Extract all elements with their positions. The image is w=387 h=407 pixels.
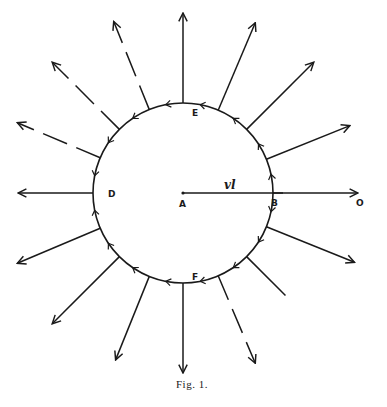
radial-arrow: [266, 227, 354, 263]
label-D: D: [108, 189, 115, 199]
label-E: E: [192, 108, 198, 118]
radial-arrow: [266, 126, 350, 160]
radial-arrow: [52, 257, 119, 324]
radial-arrow: [52, 62, 119, 129]
label-B: B: [271, 198, 278, 208]
figure-diagram: A B D E F O vl Fig. 1.: [0, 0, 387, 407]
center-dot: [181, 191, 184, 194]
radial-arrow: [17, 123, 100, 158]
figure-caption: Fig. 1.: [176, 378, 208, 390]
radial-arrow: [247, 62, 314, 129]
radial-arrow: [218, 23, 255, 111]
radial-arrow: [17, 228, 100, 263]
radial-arrow: [247, 257, 286, 296]
label-F: F: [192, 272, 198, 282]
label-vl: vl: [224, 178, 236, 192]
radial-arrow: [218, 276, 255, 364]
label-A: A: [179, 199, 186, 209]
radial-arrow: [114, 22, 150, 110]
radial-arrow: [116, 276, 150, 360]
label-O: O: [356, 198, 364, 208]
